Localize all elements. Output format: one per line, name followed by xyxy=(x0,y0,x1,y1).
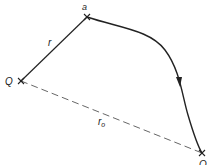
start-cross-icon xyxy=(18,78,24,84)
r-line xyxy=(21,17,87,81)
label-end-q: Q xyxy=(199,159,207,165)
diagram-canvas: Q a Q r ro xyxy=(0,0,207,165)
label-r: r xyxy=(48,37,52,48)
r0-dashed-line xyxy=(21,81,202,153)
label-r0: ro xyxy=(98,116,105,128)
end-cross-icon xyxy=(199,150,205,156)
label-a: a xyxy=(82,2,87,12)
label-start-q: Q xyxy=(5,76,13,87)
path-curve xyxy=(87,17,202,153)
label-r0-sub: o xyxy=(101,121,105,128)
